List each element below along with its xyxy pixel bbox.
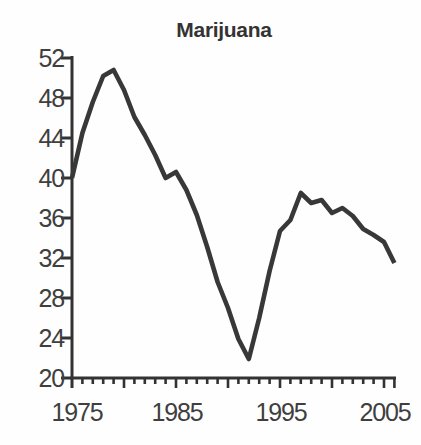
x-tick-label: 2005 xyxy=(360,398,411,426)
y-tick-label: 36 xyxy=(39,204,65,232)
x-tick-label: 1975 xyxy=(52,398,103,426)
y-tick-label: 48 xyxy=(39,84,65,112)
data-line xyxy=(72,70,394,359)
y-tick-label: 24 xyxy=(39,324,66,352)
y-tick-label: 40 xyxy=(39,164,65,192)
x-tick-label: 1985 xyxy=(152,398,203,426)
y-tick-label: 20 xyxy=(39,364,65,392)
figure: Marijuana 202428323640444852197519851995… xyxy=(0,0,421,445)
chart-svg: 2024283236404448521975198519952005 xyxy=(0,0,421,445)
y-tick-label: 44 xyxy=(39,124,66,152)
y-tick-label: 28 xyxy=(39,284,65,312)
y-tick-label: 52 xyxy=(39,44,65,72)
y-tick-label: 32 xyxy=(39,244,65,272)
x-tick-label: 1995 xyxy=(256,398,307,426)
